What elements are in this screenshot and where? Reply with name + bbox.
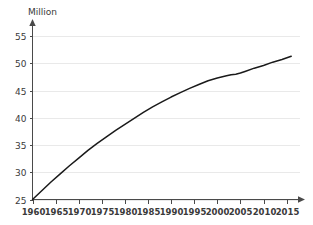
y-tick-label: 35 (15, 141, 26, 151)
data-line-population (33, 56, 292, 199)
y-axis-arrow-icon (29, 19, 35, 26)
x-tick-label: 1965 (45, 207, 69, 217)
line-chart-plot: 25303540455055 1960196519701975198019851… (0, 0, 313, 225)
y-tick-label: 25 (15, 196, 26, 206)
x-tick-label: 1975 (91, 207, 115, 217)
y-tick-label: 55 (15, 32, 26, 42)
x-tick-label: 1990 (160, 207, 184, 217)
gridlines (33, 37, 301, 201)
y-tick-label: 50 (15, 59, 27, 69)
x-tick-label: 2000 (206, 207, 230, 217)
x-tick-label: 2010 (253, 207, 277, 217)
y-tick-label: 45 (15, 87, 26, 97)
x-tick-label: 2015 (276, 207, 300, 217)
x-tick-label: 1995 (183, 207, 207, 217)
x-axis-arrow-icon (298, 196, 305, 202)
y-tick-label: 30 (15, 168, 27, 178)
x-tick-label: 1960 (22, 207, 46, 217)
x-tick-label: 1970 (68, 207, 92, 217)
x-tick-label: 1985 (137, 207, 161, 217)
x-tick-label: 2005 (229, 207, 253, 217)
y-tick-label: 40 (15, 114, 27, 124)
x-axis-labels: 1960196519701975198019851990199520002005… (22, 207, 300, 217)
y-axis-labels: 25303540455055 (15, 32, 27, 206)
chart-container: Million 25303540455055 19601965197019751… (0, 0, 313, 225)
x-tick-label: 1980 (114, 207, 138, 217)
